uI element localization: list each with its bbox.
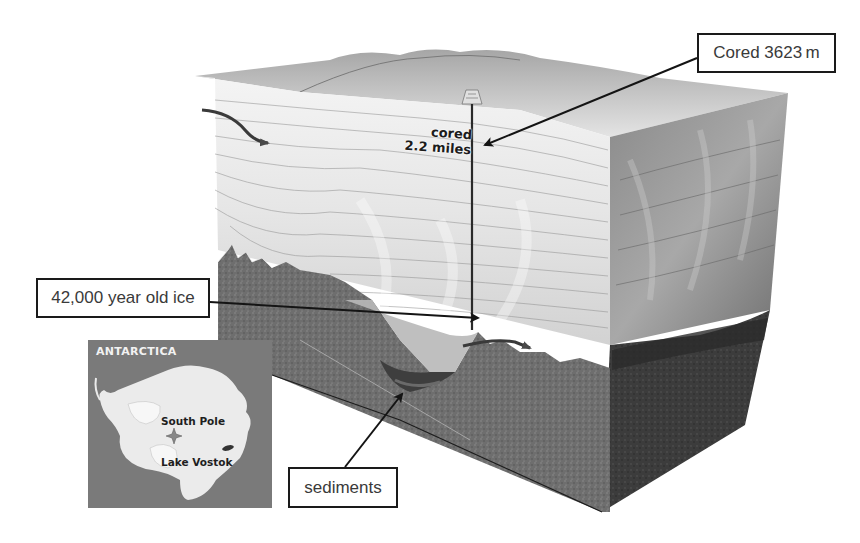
lake-vostok-label: Lake Vostok [161, 456, 233, 468]
inset-map-title: ANTARCTICA [96, 345, 177, 358]
ice-side-face [610, 93, 788, 345]
south-pole-label: South Pole [161, 415, 225, 427]
callout-cored-depth: Cored 3623 m [697, 33, 836, 73]
diagram-stage: cored 2.2 miles Cored 3623 m 42,000 year… [0, 0, 860, 543]
callout-old-ice: 42,000 year old ice [36, 278, 210, 318]
drill-rig-icon [462, 90, 482, 104]
cored-depth-annotation: cored 2.2 miles [404, 124, 472, 158]
callout-sediments: sediments [288, 467, 398, 508]
antarctica-inset-map: ANTARCTICA South Pole Lake Vostok [88, 340, 272, 508]
